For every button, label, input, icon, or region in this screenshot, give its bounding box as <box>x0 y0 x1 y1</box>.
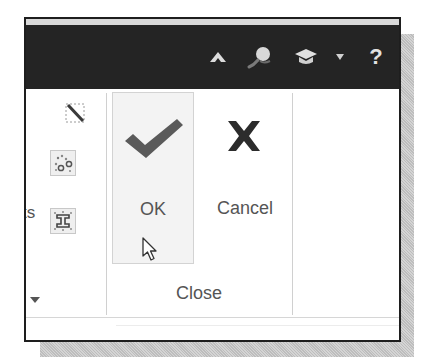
ok-label: OK <box>113 199 193 220</box>
mouse-cursor-icon <box>142 237 160 267</box>
search-icon[interactable] <box>244 25 278 89</box>
tool-scatter-points[interactable] <box>50 150 76 176</box>
tool-constraint[interactable] <box>50 208 76 234</box>
sketch-edit-icon <box>64 102 86 124</box>
x-icon <box>224 119 264 153</box>
partial-group-label: ts <box>24 203 35 223</box>
ribbon-separator <box>292 93 293 315</box>
title-bar: ? <box>26 25 399 89</box>
screenshot-stage: ? ts <box>0 0 425 357</box>
dropdown-arrow-icon[interactable] <box>332 25 348 89</box>
tool-sketch-edit[interactable] <box>62 100 87 125</box>
help-glyph: ? <box>369 44 382 70</box>
constraint-icon <box>52 210 74 232</box>
app-window: ? ts <box>24 17 401 342</box>
collapse-ribbon-icon[interactable] <box>206 25 230 89</box>
ribbon-bottom-border <box>26 317 399 318</box>
ribbon-subline <box>116 325 401 326</box>
ribbon-separator <box>106 93 107 315</box>
help-icon[interactable]: ? <box>364 25 388 89</box>
group-expand-arrow-icon[interactable] <box>30 289 40 308</box>
scatter-points-icon <box>52 152 74 174</box>
close-group-label: Close <box>106 283 292 304</box>
cancel-label: Cancel <box>198 198 292 219</box>
cancel-button[interactable]: Cancel <box>198 92 292 264</box>
checkmark-icon <box>123 115 185 161</box>
learning-icon[interactable] <box>292 25 320 89</box>
ribbon-panel: ts <box>26 89 399 324</box>
